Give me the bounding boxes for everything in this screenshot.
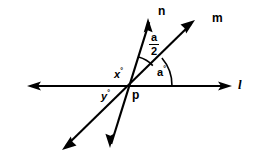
label-vertex-p: p bbox=[132, 89, 139, 101]
arc-angle-a-half bbox=[139, 57, 153, 66]
label-angle-x: x° bbox=[114, 67, 123, 80]
label-line-l: l bbox=[238, 78, 242, 91]
geometry-diagram: n m l p x° y° a° a 2 bbox=[0, 0, 257, 153]
angle-x-degree: ° bbox=[120, 67, 123, 74]
angle-a-degree: ° bbox=[163, 65, 166, 72]
fraction-numerator: a bbox=[149, 32, 159, 44]
label-ray-m: m bbox=[212, 12, 223, 24]
angle-y-degree: ° bbox=[107, 89, 110, 96]
fraction-denominator: 2 bbox=[149, 45, 159, 58]
line-n-segment bbox=[111, 22, 149, 144]
label-ray-n: n bbox=[158, 5, 165, 17]
label-angle-a: a° bbox=[157, 65, 166, 78]
label-angle-y: y° bbox=[101, 89, 110, 102]
label-angle-a-half: a 2 bbox=[149, 32, 159, 57]
line-n bbox=[105, 18, 152, 148]
